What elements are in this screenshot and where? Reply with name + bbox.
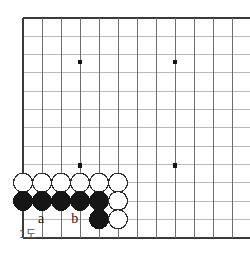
stone-white — [52, 173, 71, 192]
star-point-upper-right — [173, 60, 177, 64]
stone-white — [90, 173, 109, 192]
stone-black — [90, 210, 109, 229]
stone-black — [71, 192, 90, 211]
stone-white — [109, 173, 128, 192]
star-point-upper-left — [78, 60, 82, 64]
figure-caption: 1도 — [19, 229, 36, 241]
star-point-lower-right — [173, 163, 177, 167]
stone-black — [52, 192, 71, 211]
stone-black — [14, 192, 33, 211]
star-point-lower-left — [78, 163, 82, 167]
go-board-diagram: 1도 ab — [0, 0, 250, 255]
stone-black — [33, 192, 52, 211]
stone-white — [33, 173, 52, 192]
point-label-a: a — [38, 212, 44, 226]
stone-white — [71, 173, 90, 192]
point-label-b: b — [71, 212, 78, 226]
stone-black — [90, 192, 109, 211]
stone-white — [109, 210, 128, 229]
stone-white — [109, 192, 128, 211]
stone-white — [14, 173, 33, 192]
